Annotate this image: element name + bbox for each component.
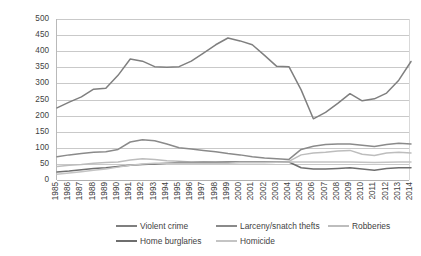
series-line-violent-crime (57, 38, 411, 119)
x-tick-label-1985: 1985 (52, 182, 60, 200)
plot-area (56, 19, 410, 180)
x-tick-label-1987: 1987 (76, 182, 84, 200)
x-tick-label-2002: 2002 (260, 182, 268, 200)
x-tick-label-1994: 1994 (162, 182, 170, 200)
x-tick-label-1989: 1989 (101, 182, 109, 200)
x-tick-label-2003: 2003 (272, 182, 280, 200)
legend-row-1: Violent crimeLarceny/snatch theftsRobber… (56, 219, 416, 233)
x-tick-label-2008: 2008 (333, 182, 341, 200)
legend-swatch-icon (328, 225, 349, 227)
x-tick-label-2007: 2007 (321, 182, 329, 200)
x-tick-label-2004: 2004 (284, 182, 292, 200)
legend-label: Larceny/snatch thefts (240, 222, 320, 231)
x-tick-label-2011: 2011 (369, 182, 377, 200)
y-tick-label-200: 200 (35, 112, 49, 120)
y-tick-label-0: 0 (44, 176, 49, 184)
x-tick-label-1996: 1996 (186, 182, 194, 200)
chart-legend: Violent crimeLarceny/snatch theftsRobber… (56, 219, 416, 253)
x-tick-label-1986: 1986 (64, 182, 72, 200)
x-axis-labels: 1985198619871988198919901991199219931994… (56, 182, 410, 216)
y-tick-label-150: 150 (35, 128, 49, 136)
legend-item-violent-crime[interactable]: Violent crime (116, 219, 188, 233)
legend-label: Home burglaries (140, 237, 201, 246)
x-tick-label-2006: 2006 (308, 182, 316, 200)
gridline-0 (57, 180, 409, 181)
x-tick-label-2012: 2012 (382, 182, 390, 200)
y-tick-label-400: 400 (35, 47, 49, 55)
x-tick-label-1999: 1999 (223, 182, 231, 200)
line-chart: 050100150200250300350400450500 198519861… (0, 0, 421, 256)
x-tick-label-2000: 2000 (235, 182, 243, 200)
legend-swatch-icon (116, 240, 137, 242)
x-tick-label-1993: 1993 (150, 182, 158, 200)
legend-item-homicide[interactable]: Homicide (216, 234, 275, 248)
legend-row-2: Home burglariesHomicide (56, 234, 416, 248)
y-tick-label-100: 100 (35, 144, 49, 152)
series-line-robberies (57, 150, 411, 166)
x-tick-label-1988: 1988 (89, 182, 97, 200)
legend-item-robberies[interactable]: Robberies (328, 219, 390, 233)
legend-label: Robberies (352, 222, 390, 231)
x-tick-label-2005: 2005 (296, 182, 304, 200)
y-tick-label-250: 250 (35, 96, 49, 104)
y-tick-label-450: 450 (35, 31, 49, 39)
x-tick-label-1998: 1998 (211, 182, 219, 200)
x-tick-label-2013: 2013 (394, 182, 402, 200)
x-tick-label-2014: 2014 (406, 182, 414, 200)
series-line-larceny-snatch-thefts (57, 140, 411, 160)
x-tick-label-1990: 1990 (113, 182, 121, 200)
x-tick-label-1995: 1995 (174, 182, 182, 200)
legend-label: Violent crime (140, 222, 188, 231)
y-tick-label-300: 300 (35, 79, 49, 87)
y-tick-label-50: 50 (40, 160, 49, 168)
y-axis-labels: 050100150200250300350400450500 (0, 0, 54, 200)
legend-label: Homicide (240, 237, 275, 246)
legend-swatch-icon (216, 240, 237, 242)
legend-swatch-icon (116, 225, 137, 227)
legend-swatch-icon (216, 225, 237, 227)
x-tick-label-1991: 1991 (125, 182, 133, 200)
y-tick-label-500: 500 (35, 15, 49, 23)
series-layer (57, 19, 411, 180)
y-tick-label-350: 350 (35, 63, 49, 71)
x-tick-label-1992: 1992 (137, 182, 145, 200)
x-tick-label-1997: 1997 (198, 182, 206, 200)
x-tick-label-2001: 2001 (247, 182, 255, 200)
x-tick-label-2010: 2010 (357, 182, 365, 200)
legend-item-larceny-snatch-thefts[interactable]: Larceny/snatch thefts (216, 219, 320, 233)
legend-item-home-burglaries[interactable]: Home burglaries (116, 234, 201, 248)
x-tick-label-2009: 2009 (345, 182, 353, 200)
